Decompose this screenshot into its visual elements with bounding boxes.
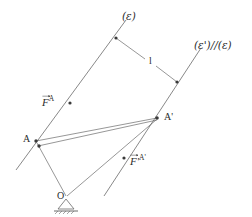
dot-point-a [34,139,37,142]
label-point-a: A [23,134,30,144]
dot-epsilon-prime-mid [175,80,178,83]
line-epsilon [16,20,126,170]
label-origin-o: O [57,191,64,201]
distance-segment-l-2 [156,66,177,82]
dot-force-a-tip [68,101,71,104]
force-a-superscript: A [49,94,54,103]
distance-segment-l [116,38,145,59]
label-distance-l: l [149,56,152,66]
line-epsilon-prime [104,48,201,196]
label-point-a-prime: A' [164,112,173,122]
dot-point-a-prime [155,116,159,120]
dot-epsilon-upper [114,36,117,39]
segment-a-to-a-prime [36,118,157,141]
figure-canvas [0,0,252,217]
label-force-vector-a: FA [42,95,54,108]
force-a-prime-superscript: A' [139,153,146,162]
label-force-vector-a-prime: F'A' [130,154,146,167]
segment-o-to-a [37,143,66,196]
dot-force-a-prime-tip [122,156,125,159]
mechanics-figure: (ε) (ε')//(ε) l A A' O FA [0,0,252,217]
label-line-epsilon-prime: (ε')//(ε) [194,40,232,52]
dot-point-a-lower [37,144,40,147]
label-line-epsilon: (ε) [122,11,136,23]
